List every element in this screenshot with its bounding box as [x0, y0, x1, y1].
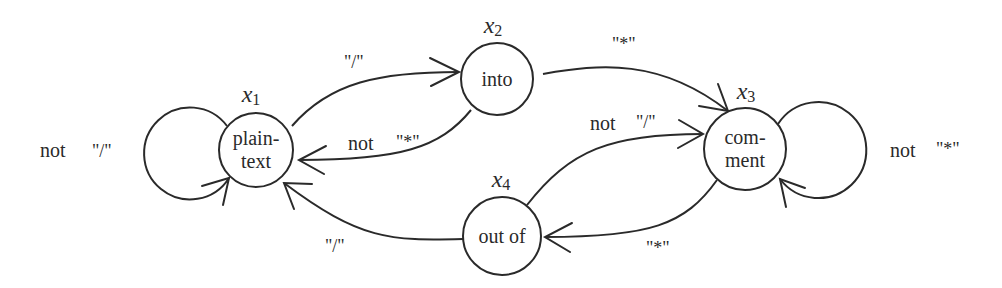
state-comment: com- ment x3 — [704, 78, 786, 190]
edge-x3-to-x4 — [545, 180, 717, 252]
edge-x2-to-x1 — [299, 110, 471, 174]
state-variable: x1 — [241, 81, 261, 108]
edge-x1-self-loop — [144, 107, 229, 205]
state-label-line2: ment — [725, 149, 765, 171]
state-plain-text: plain- text x1 — [219, 81, 293, 187]
edge-label-prefix: not — [590, 112, 616, 134]
edge-label-symbol: "/" — [92, 141, 112, 161]
state-label-line2: text — [241, 150, 271, 172]
edge-label-symbol: "/" — [344, 52, 364, 72]
edge-x1-to-x2 — [292, 58, 459, 126]
edge-x4-to-x1 — [284, 183, 463, 240]
state-variable: x4 — [491, 166, 511, 193]
state-into: into x2 — [461, 12, 533, 115]
state-diagram: plain- text x1 into x2 com- ment x3 out … — [0, 0, 1002, 288]
edge-label-symbol: "*" — [612, 34, 636, 54]
edge-label-prefix: not — [348, 132, 374, 154]
state-label-line1: plain- — [233, 127, 280, 150]
edge-x2-to-x3 — [543, 67, 728, 111]
edge-label-symbol: "*" — [396, 132, 420, 152]
edge-label-symbol: "*" — [646, 238, 670, 258]
state-variable: x3 — [736, 78, 756, 105]
edge-label-prefix: not — [40, 139, 66, 161]
edge-label-symbol: "*" — [936, 139, 960, 159]
state-label-line1: into — [481, 68, 512, 90]
edge-label-symbol: "/" — [636, 112, 656, 132]
edge-label-prefix: not — [890, 139, 916, 161]
state-out-of: out of x4 — [463, 166, 541, 275]
state-variable: x2 — [483, 12, 503, 39]
state-label-line1: out of — [478, 225, 526, 247]
edge-x3-self-loop — [778, 102, 866, 207]
edge-label-symbol: "/" — [325, 236, 345, 256]
state-label-line1: com- — [724, 126, 765, 148]
